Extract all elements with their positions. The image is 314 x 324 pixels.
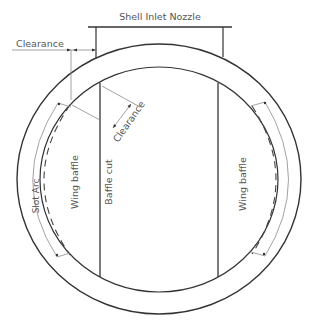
shell-outer-wall [17,44,301,314]
slot-arc-label: Slot Arc [31,179,41,214]
wing-baffle-left-dashed [44,105,70,255]
wing-baffle-left-label: Wing baffle [69,155,80,209]
nozzle-label: Shell Inlet Nozzle [119,11,201,22]
baffle-cut-label: Baffle cut [103,159,114,205]
clearance-top-label: Clearance [16,38,64,49]
wing-baffle-right-label: Wing baffle [237,157,248,211]
wing-baffle-right-dashed [252,106,276,254]
slot-arc-dimension-right [251,102,289,256]
heat-exchanger-diagram: Shell Inlet Nozzle Clearance Clearance S… [0,0,314,324]
